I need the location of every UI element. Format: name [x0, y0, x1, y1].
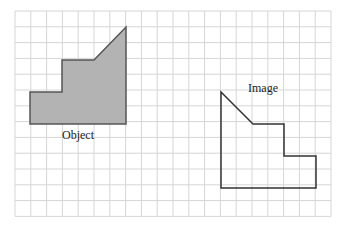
grid-diagram: Object Image	[0, 0, 345, 232]
image-shape	[221, 92, 316, 188]
object-label: Object	[62, 128, 95, 142]
image-label: Image	[248, 81, 278, 95]
